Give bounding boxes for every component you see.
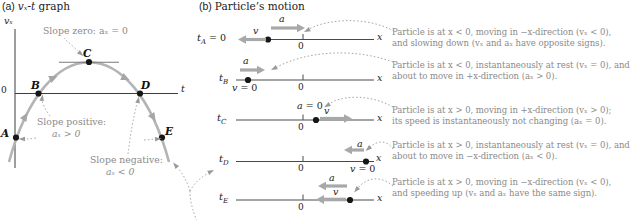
- point-label-e: E: [165, 126, 173, 138]
- td-velocity-zero-label: v = 0: [350, 164, 375, 174]
- slope-positive-value: aₓ > 0: [52, 129, 80, 139]
- point-label-c: C: [83, 48, 91, 60]
- description-td: Particle is at x > 0, instantaneously at…: [392, 140, 630, 162]
- description-ta: Particle is at x < 0, moving in −x-direc…: [392, 27, 611, 49]
- slope-zero-annotation: Slope zero: aₓ = 0: [43, 26, 128, 36]
- t-axis-label: t: [181, 84, 185, 94]
- time-label-td: tD: [219, 153, 229, 168]
- td-acceleration-label: a: [357, 139, 363, 149]
- ta-origin-label: 0: [298, 42, 304, 52]
- graph-origin-label: 0: [1, 86, 7, 96]
- te-acceleration-label: a: [329, 173, 335, 183]
- panel-b-index: (b): [199, 0, 212, 12]
- description-te: Particle is at x > 0, moving in −x-direc…: [392, 177, 611, 199]
- te-origin-label: 0: [298, 203, 304, 213]
- tb-velocity-zero-label: v = 0: [232, 83, 257, 93]
- tb-origin-label: 0: [298, 83, 304, 93]
- td-x-axis-label: x: [376, 153, 381, 163]
- time-label-tc: tC: [217, 112, 226, 127]
- panel-a-title: (a)vₓ-t graph: [2, 1, 70, 13]
- vxt-axes: [15, 29, 178, 168]
- slope-positive-annotation: Slope positive:: [37, 117, 106, 127]
- time-label-tb: tB: [219, 72, 228, 87]
- tc-acceleration-zero-label: a = 0: [297, 101, 323, 111]
- time-label-te: tE: [219, 191, 228, 206]
- point-label-a: A: [1, 128, 9, 140]
- slope-negative-value: aₓ < 0: [106, 167, 134, 177]
- te-velocity-label: v: [333, 187, 338, 197]
- vxt-curve: [9, 62, 169, 162]
- time-label-ta: tA = 0: [197, 32, 226, 47]
- tb-x-axis-label: x: [377, 73, 382, 83]
- point-label-d: D: [141, 80, 150, 92]
- panel-b-title: (b)Particle’s motion: [199, 1, 305, 13]
- description-tb: Particle is at x < 0, instantaneously at…: [392, 60, 630, 82]
- motion-axes: [236, 34, 374, 200]
- slope-negative-annotation: Slope negative:: [90, 155, 163, 165]
- te-x-axis-label: x: [377, 193, 382, 203]
- tc-velocity-label: v: [324, 106, 329, 116]
- y-axis-label: vₓ: [4, 16, 13, 26]
- tb-acceleration-label: a: [243, 56, 249, 66]
- ta-acceleration-label: a: [279, 14, 285, 24]
- panel-a-index: (a): [2, 0, 15, 12]
- tc-origin-label: 0: [298, 123, 304, 133]
- ta-x-axis-label: x: [377, 32, 382, 42]
- physics-figure: (a)vₓ-t graph vₓ 0 t A B C D E Slope zer…: [0, 0, 632, 220]
- tc-x-axis-label: x: [377, 113, 382, 123]
- ta-velocity-label: v: [253, 26, 258, 36]
- td-origin-label: 0: [298, 164, 304, 174]
- description-tc: Particle is at x > 0, moving in +x-direc…: [392, 105, 611, 127]
- point-label-b: B: [31, 80, 40, 92]
